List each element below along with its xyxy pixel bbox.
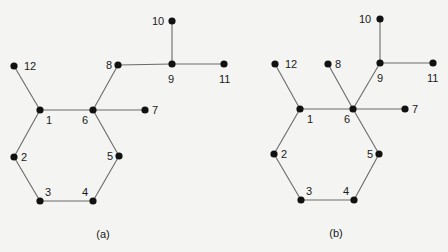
node-5	[375, 150, 382, 157]
node-2	[270, 150, 277, 157]
edge-4-5	[354, 154, 379, 200]
node-11	[429, 59, 436, 66]
node-label-2: 2	[281, 148, 287, 160]
node-label-11: 11	[427, 72, 438, 84]
edge-5-6	[353, 109, 379, 154]
node-7	[401, 105, 408, 112]
node-label-6: 6	[344, 113, 350, 125]
graph-canvas: 123456789101112 (a) 123456789101112 (b)	[0, 0, 448, 252]
edge-2-3	[274, 154, 301, 200]
node-label-8: 8	[106, 59, 112, 71]
node-label-10: 10	[152, 15, 164, 27]
graph-panel-a: 123456789101112 (a)	[10, 15, 230, 240]
node-6	[89, 106, 96, 113]
node-label-4: 4	[82, 186, 88, 198]
edge-6-8	[328, 64, 353, 109]
edge-layer-a	[14, 21, 224, 201]
node-label-10: 10	[359, 13, 371, 25]
node-9	[168, 60, 175, 67]
node-3	[36, 197, 43, 204]
node-11	[220, 60, 227, 67]
edge-4-5	[93, 156, 119, 201]
node-12	[10, 62, 17, 69]
node-label-1: 1	[307, 113, 313, 125]
node-label-4: 4	[343, 185, 349, 197]
node-4	[350, 196, 357, 203]
edge-1-2	[14, 110, 40, 157]
node-8	[114, 61, 121, 68]
edge-1-12	[275, 64, 300, 109]
node-label-7: 7	[152, 104, 158, 116]
node-label-12: 12	[24, 60, 36, 72]
node-7	[141, 106, 148, 113]
node-9	[376, 59, 383, 66]
graph-figure: 123456789101112 (a) 123456789101112 (b)	[0, 0, 448, 252]
edge-2-3	[14, 157, 40, 201]
node-label-3: 3	[45, 186, 51, 198]
edge-5-6	[93, 110, 119, 156]
node-label-9: 9	[168, 73, 174, 85]
caption-b: (b)	[329, 227, 342, 239]
node-1	[296, 105, 303, 112]
edge-8-9	[118, 64, 172, 65]
label-layer-b: 123456789101112	[281, 13, 438, 197]
node-label-11: 11	[219, 73, 230, 85]
edge-6-9	[353, 63, 380, 109]
node-label-1: 1	[46, 114, 52, 126]
node-label-7: 7	[412, 103, 418, 115]
edge-1-12	[14, 66, 40, 110]
node-10	[168, 17, 175, 24]
node-4	[89, 197, 96, 204]
node-6	[349, 105, 356, 112]
node-layer-a	[10, 17, 227, 204]
node-label-5: 5	[107, 150, 113, 162]
node-label-12: 12	[285, 58, 297, 70]
node-label-3: 3	[306, 185, 312, 197]
node-label-9: 9	[377, 72, 383, 84]
node-label-5: 5	[367, 148, 373, 160]
caption-a: (a)	[96, 228, 109, 240]
node-5	[115, 152, 122, 159]
node-8	[324, 60, 331, 67]
node-2	[10, 153, 17, 160]
node-label-6: 6	[82, 114, 88, 126]
label-layer-a: 123456789101112	[21, 15, 230, 198]
node-12	[271, 60, 278, 67]
node-10	[376, 15, 383, 22]
node-1	[36, 106, 43, 113]
node-label-2: 2	[21, 151, 27, 163]
edge-6-8	[93, 65, 118, 110]
graph-panel-b: 123456789101112 (b)	[270, 13, 438, 239]
node-label-8: 8	[335, 58, 341, 70]
node-3	[297, 196, 304, 203]
